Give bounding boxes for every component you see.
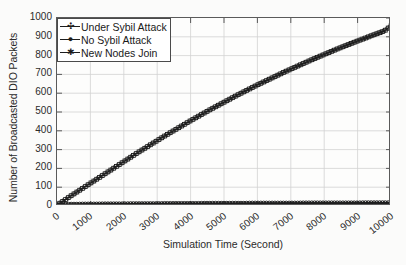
legend-item-no-sybil-attack: ● No Sybil Attack xyxy=(60,33,167,46)
chart-legend: ✣ Under Sybil Attack ● No Sybil Attack ✱… xyxy=(57,18,171,62)
legend-marker-star-icon: ✱ xyxy=(60,47,80,58)
legend-label-new-nodes-join: New Nodes Join xyxy=(81,47,157,59)
legend-item-under-sybil-attack: ✣ Under Sybil Attack xyxy=(60,20,167,33)
legend-item-new-nodes-join: ✱ New Nodes Join xyxy=(60,46,167,59)
x-axis-title: Simulation Time (Second) xyxy=(56,238,390,250)
chart-figure: Number of Broadcasted DIO Packets 010020… xyxy=(0,0,406,265)
legend-marker-plus-square-icon: ✣ xyxy=(60,21,80,32)
legend-label-under-sybil-attack: Under Sybil Attack xyxy=(81,21,167,33)
legend-marker-circle-dot-icon: ● xyxy=(60,34,80,45)
legend-label-no-sybil-attack: No Sybil Attack xyxy=(81,34,152,46)
